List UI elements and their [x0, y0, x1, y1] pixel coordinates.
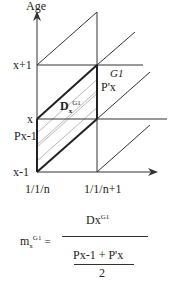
y-tick-x-minus-1: x-1 — [13, 166, 29, 178]
y-axis-label: Age — [26, 0, 46, 12]
formula-lhs-sup: G1 — [33, 234, 42, 242]
deaths-sub: x — [69, 107, 73, 115]
formula-numerator-main: Dx — [86, 213, 101, 227]
formula-inner-bar — [74, 264, 134, 265]
deaths-main: D — [60, 99, 69, 113]
x-tick-n: 1/1/n — [25, 183, 50, 195]
formula-numerator: DxG1 — [86, 211, 109, 226]
population-end-label: P'x — [101, 81, 116, 93]
deaths-label: DxG1 — [60, 97, 81, 117]
formula-fraction-bar — [62, 236, 148, 237]
formula-numerator-sup: G1 — [101, 213, 110, 221]
formula-lhs-main: m — [20, 234, 29, 248]
formula-denominator-div: 2 — [99, 267, 105, 279]
formula-denominator-expr: Px-1 + P'x — [73, 249, 123, 261]
formula-lhs-sub: x — [29, 242, 33, 250]
generation-label: G1 — [110, 67, 123, 79]
population-start-label: Px-1 — [14, 130, 37, 142]
formula-lhs: mxG1 = — [20, 232, 51, 252]
cohort-boundary-lower — [37, 119, 97, 172]
deaths-sup: G1 — [72, 99, 81, 107]
formula-equals: = — [44, 235, 50, 247]
y-tick-x: x — [27, 113, 33, 125]
lifeline — [97, 125, 150, 172]
lifeline — [37, 12, 97, 65]
lifeline — [97, 32, 135, 65]
y-tick-x-plus-1: x+1 — [13, 59, 32, 71]
x-tick-n-plus-1: 1/1/n+1 — [84, 183, 121, 195]
